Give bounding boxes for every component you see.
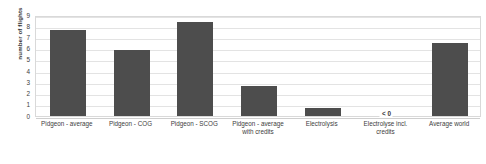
bar	[432, 43, 468, 116]
plot-area: < 0	[35, 16, 481, 117]
x-axis-label-line2: with credits	[226, 128, 290, 136]
x-axis-label-1: Pidgeon - COG	[99, 120, 163, 128]
y-tick-label-6: 6	[4, 46, 30, 52]
y-tick-label-7: 7	[4, 35, 30, 41]
y-tick-label-3: 3	[4, 80, 30, 86]
bar	[241, 86, 277, 115]
y-tick-label-8: 8	[4, 24, 30, 30]
x-axis-label-line1: Pidgeon - average	[35, 120, 99, 128]
bar-slot	[418, 17, 482, 116]
x-axis-label-line1: Pidgeon - average	[226, 120, 290, 128]
x-axis-label-line1: Pidgeon - SCOG	[162, 120, 226, 128]
x-axis-labels: Pidgeon - averagePidgeon - COGPidgeon - …	[35, 120, 481, 160]
y-tick-label-2: 2	[4, 91, 30, 97]
x-axis-label-line1: Pidgeon - COG	[99, 120, 163, 128]
bar	[114, 50, 150, 115]
y-tick-label-4: 4	[4, 68, 30, 74]
x-axis-label-2: Pidgeon - SCOG	[162, 120, 226, 128]
bar-slot	[291, 17, 355, 116]
y-axis-tick-labels: 9876543210	[0, 16, 33, 117]
bar-slot	[36, 17, 100, 116]
x-axis-label-3: Pidgeon - averagewith credits	[226, 120, 290, 136]
x-axis-label-line1: Electrolyse incl.	[354, 120, 418, 128]
y-tick-label-5: 5	[4, 57, 30, 63]
bar	[305, 108, 341, 116]
x-axis-label-6: Average world	[417, 120, 481, 128]
bar-slot	[227, 17, 291, 116]
bar-slot	[100, 17, 164, 116]
x-axis-label-line2: credits	[354, 128, 418, 136]
bar-slot	[163, 17, 227, 116]
x-axis-label-5: Electrolyse incl.credits	[354, 120, 418, 136]
bars-layer: < 0	[36, 17, 480, 116]
x-axis-label-4: Electrolysis	[290, 120, 354, 128]
y-tick-label-1: 1	[4, 102, 30, 108]
y-tick-label-0: 0	[4, 113, 30, 119]
bar-chart: number of flights 9876543210 < 0 Pidgeon…	[0, 0, 486, 164]
bar	[50, 30, 86, 115]
x-axis-label-0: Pidgeon - average	[35, 120, 99, 128]
bar	[177, 22, 213, 116]
below-zero-annotation: < 0	[380, 110, 393, 117]
gridline-0	[36, 118, 480, 119]
x-axis-label-line1: Average world	[417, 120, 481, 128]
x-axis-label-line1: Electrolysis	[290, 120, 354, 128]
bar-slot: < 0	[355, 17, 419, 116]
y-tick-label-9: 9	[4, 12, 30, 18]
